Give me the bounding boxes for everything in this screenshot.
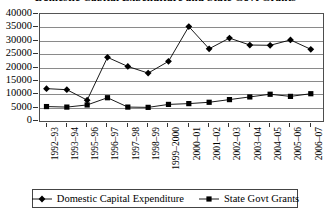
data-point-marker xyxy=(267,42,274,49)
y-axis-tick xyxy=(33,67,38,68)
x-axis-tick-label: 1999–2000 xyxy=(171,127,181,170)
legend-label: State Govt Grants xyxy=(224,193,299,204)
data-point-marker xyxy=(166,102,171,107)
data-point-marker xyxy=(246,42,253,49)
x-axis-tick xyxy=(147,123,148,127)
x-axis: 1992–931993–941995–961996–971997–981998–… xyxy=(39,123,324,185)
y-axis-tick-label: 0 xyxy=(27,115,32,125)
data-point-marker xyxy=(64,104,69,109)
x-axis-tick-label: 2001–02 xyxy=(212,127,222,160)
legend-label: Domestic Capital Expenditure xyxy=(57,193,184,204)
data-point-marker xyxy=(43,85,50,92)
data-point-marker xyxy=(227,97,232,102)
y-axis-tick-label: 15000 xyxy=(6,75,32,85)
data-point-marker xyxy=(307,46,314,53)
data-point-marker xyxy=(207,100,212,105)
data-point-marker xyxy=(226,35,233,42)
y-axis-tick xyxy=(33,107,38,108)
y-axis-tick xyxy=(33,13,38,14)
y-axis-tick xyxy=(33,53,38,54)
x-axis-tick xyxy=(228,123,229,127)
x-axis-tick-label: 2003–04 xyxy=(253,127,263,160)
chart-title: Domestic Capital Expenditure and State G… xyxy=(0,0,331,1)
x-axis-tick xyxy=(249,123,250,127)
x-axis-tick xyxy=(289,123,290,127)
chart-legend: Domestic Capital ExpenditureState Govt G… xyxy=(32,189,298,208)
x-axis-tick-label: 2000–01 xyxy=(192,127,202,160)
y-axis-tick xyxy=(33,26,38,27)
data-point-marker xyxy=(186,101,191,106)
y-axis-tick-label: 10000 xyxy=(6,88,32,98)
data-point-marker xyxy=(124,63,131,70)
data-point-marker xyxy=(104,54,111,61)
x-axis-tick xyxy=(188,123,189,127)
x-axis-tick xyxy=(66,123,67,127)
data-point-marker xyxy=(145,70,152,77)
line-chart: Domestic Capital Expenditure and State G… xyxy=(0,0,331,212)
y-axis-tick-label: 35000 xyxy=(6,21,32,31)
legend-item[interactable]: Domestic Capital Expenditure xyxy=(31,193,184,204)
x-axis-tick xyxy=(208,123,209,127)
x-axis-tick xyxy=(269,123,270,127)
y-axis-tick xyxy=(33,80,38,81)
y-axis-tick xyxy=(33,40,38,41)
x-axis-tick-label: 2005–06 xyxy=(293,127,303,160)
x-axis-tick-label: 1996–97 xyxy=(110,127,120,160)
data-point-marker xyxy=(288,94,293,99)
data-point-marker xyxy=(146,105,151,110)
y-axis: 4000035000300002500020000150001000050000 xyxy=(0,0,37,135)
data-point-marker xyxy=(105,95,110,100)
x-axis-tick-label: 2004–05 xyxy=(273,127,283,160)
x-axis-tick-label: 1998–99 xyxy=(151,127,161,160)
x-axis-tick-label: 1995–96 xyxy=(90,127,100,160)
y-axis-tick-label: 20000 xyxy=(6,62,32,72)
x-axis-tick xyxy=(46,123,47,127)
x-axis-tick xyxy=(106,123,107,127)
y-axis-tick-label: 30000 xyxy=(6,35,32,45)
data-point-marker xyxy=(247,94,252,99)
y-axis-tick xyxy=(33,120,38,121)
x-axis-tick xyxy=(310,123,311,127)
y-axis-tick-label: 5000 xyxy=(11,102,32,112)
data-point-marker xyxy=(165,58,172,65)
diamond-marker-icon xyxy=(31,194,53,204)
y-axis-tick-label: 40000 xyxy=(6,8,32,18)
data-point-marker xyxy=(308,91,313,96)
plot-area xyxy=(39,13,324,122)
data-point-marker xyxy=(268,92,273,97)
y-axis-tick xyxy=(33,93,38,94)
x-axis-tick xyxy=(127,123,128,127)
x-axis-tick-label: 1992–93 xyxy=(50,127,60,160)
square-marker-icon xyxy=(198,194,220,204)
series-line-0 xyxy=(47,27,311,101)
x-axis-tick xyxy=(167,123,168,127)
x-axis-tick-label: 2002–03 xyxy=(232,127,242,160)
x-axis-tick-label: 1997–98 xyxy=(131,127,141,160)
x-axis-tick-label: 1993–94 xyxy=(70,127,80,160)
legend-item[interactable]: State Govt Grants xyxy=(198,193,299,204)
y-axis-tick-label: 25000 xyxy=(6,48,32,58)
data-point-marker xyxy=(287,37,294,44)
data-point-marker xyxy=(44,104,49,109)
data-point-marker xyxy=(63,86,70,93)
data-point-marker xyxy=(85,102,90,107)
x-axis-tick-label: 2006–07 xyxy=(314,127,324,160)
x-axis-tick xyxy=(86,123,87,127)
series-layer xyxy=(40,14,323,121)
data-point-marker xyxy=(125,104,130,109)
